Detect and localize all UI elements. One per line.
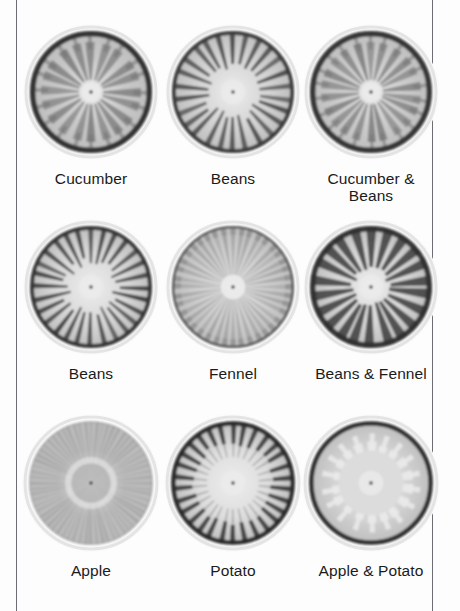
dish-grid: Cucumber Beans Cucumber &Beans Beans Fen…: [0, 22, 460, 607]
petri-dish-image: [163, 22, 303, 162]
dish-cell-potato: Potato: [160, 412, 306, 579]
dish-cell-cucumber-beans: Cucumber &Beans: [298, 22, 444, 204]
dish-caption: Potato: [160, 562, 306, 579]
petri-dish-image: [300, 412, 442, 554]
dish-cell-fennel: Fennel: [160, 217, 306, 382]
figure-panel: Cucumber Beans Cucumber &Beans Beans Fen…: [0, 0, 460, 611]
dish-cell-beans: Beans: [160, 22, 306, 187]
petri-dish-image: [21, 217, 161, 357]
petri-dish-image: [163, 217, 303, 357]
petri-dish-image: [162, 412, 304, 554]
dish-cell-apple: Apple: [18, 412, 164, 579]
dish-row-1: Cucumber Beans Cucumber &Beans: [0, 22, 460, 217]
dish-caption: Beans: [160, 170, 306, 187]
dish-caption: Apple: [18, 562, 164, 579]
dish-cell-beans-fennel: Beans & Fennel: [298, 217, 444, 382]
dish-caption: Cucumber &Beans: [298, 170, 444, 204]
dish-caption: Apple & Potato: [298, 562, 444, 579]
dish-cell-cucumber: Cucumber: [18, 22, 164, 187]
dish-caption: Beans: [18, 365, 164, 382]
dish-caption: Fennel: [160, 365, 306, 382]
dish-caption: Cucumber: [18, 170, 164, 187]
dish-caption: Beans & Fennel: [298, 365, 444, 382]
dish-cell-beans-2: Beans: [18, 217, 164, 382]
dish-row-2: Beans Fennel Beans & Fennel: [0, 217, 460, 412]
dish-row-3: Apple Potato Apple & Potato: [0, 412, 460, 607]
clipped-top-caption: [0, 0, 460, 1]
petri-dish-image: [20, 412, 162, 554]
dish-cell-apple-potato: Apple & Potato: [298, 412, 444, 579]
petri-dish-image: [301, 217, 441, 357]
petri-dish-image: [21, 22, 161, 162]
petri-dish-image: [301, 22, 441, 162]
